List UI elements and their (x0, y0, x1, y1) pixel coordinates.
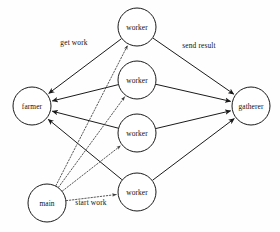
node-label-farmer: farmer (22, 102, 43, 111)
node-label-worker1: worker (126, 23, 148, 32)
edge-w1-farmer (49, 39, 122, 94)
node-main[interactable]: main (28, 184, 66, 222)
edge-main-w1 (56, 46, 128, 186)
node-label-worker4: worker (126, 188, 148, 197)
diagram-canvas: get worksend resultstart work farmerwork… (0, 0, 280, 232)
node-gatherer[interactable]: gatherer (232, 87, 270, 125)
node-label-worker3: worker (126, 129, 148, 138)
node-worker2[interactable]: worker (118, 61, 156, 99)
edge-label-start-work: start work (75, 198, 106, 207)
edge-w3-gatherer (156, 111, 231, 129)
edge-label-get-work: get work (60, 38, 87, 47)
edge-w2-farmer (52, 85, 118, 101)
edge-w4-gatherer (153, 119, 235, 181)
node-label-main: main (39, 199, 54, 208)
node-worker3[interactable]: worker (118, 114, 156, 152)
graph-svg: get worksend resultstart work farmerwork… (0, 0, 280, 232)
edge-w2-gatherer (156, 84, 231, 101)
nodes-layer: farmerworkerworkerworkerworkergathererma… (13, 8, 270, 222)
edge-label-send-result: send result (182, 41, 216, 50)
node-worker1[interactable]: worker (118, 8, 156, 46)
node-farmer[interactable]: farmer (13, 87, 51, 125)
node-worker4[interactable]: worker (118, 173, 156, 211)
edge-w4-farmer (48, 119, 122, 179)
edge-main-w3 (62, 146, 120, 191)
node-label-worker2: worker (126, 76, 148, 85)
node-label-gatherer: gatherer (238, 102, 263, 111)
